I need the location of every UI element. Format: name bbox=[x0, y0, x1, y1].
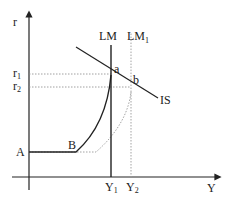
y2-tick-label: Y2 bbox=[126, 180, 139, 195]
lm1-label: LM1 bbox=[127, 29, 149, 45]
y1-tick-label: Y1 bbox=[105, 180, 118, 195]
y-axis-label: r bbox=[13, 15, 17, 29]
point-b-label: b bbox=[133, 73, 139, 87]
point-B-label: B bbox=[68, 138, 76, 152]
is-label: IS bbox=[160, 93, 171, 107]
r2-tick-label: r2 bbox=[13, 79, 21, 94]
x-axis-label: Y bbox=[207, 181, 216, 195]
lm1-curve bbox=[29, 33, 131, 152]
point-a-label: a bbox=[114, 62, 120, 76]
is-lm-diagram: r Y LM LM1 IS a b A B r1 r2 Y1 Y2 bbox=[0, 0, 237, 202]
lm-label: LM bbox=[99, 29, 117, 43]
point-A-label: A bbox=[16, 145, 25, 159]
